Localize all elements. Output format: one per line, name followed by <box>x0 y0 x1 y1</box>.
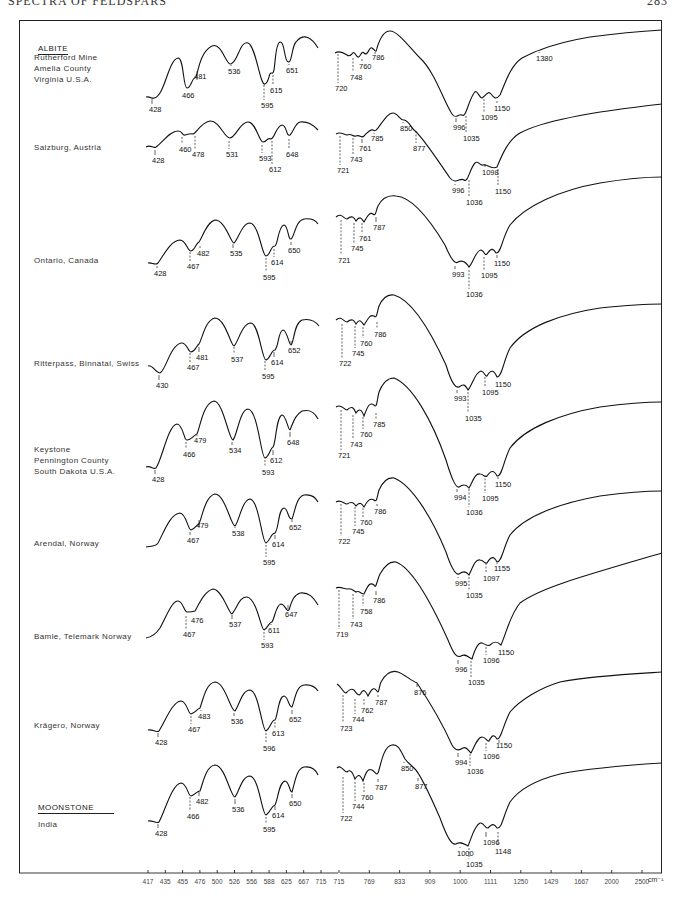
peak-label: 721 <box>337 166 350 175</box>
peak-label: 850 <box>400 124 413 133</box>
x-axis-tick-label: 625 <box>281 878 292 885</box>
peak-label: 1035 <box>466 591 483 600</box>
peak-label: 723 <box>340 724 353 733</box>
peak-label: 1096 <box>483 656 500 665</box>
peak-label: 479 <box>194 436 207 445</box>
peak-label: 743 <box>350 620 363 629</box>
spectra-curves <box>146 30 662 846</box>
peak-label: 460 <box>179 145 192 154</box>
peak-label: 614 <box>271 358 284 367</box>
peak-label: 786 <box>372 53 385 62</box>
peak-label: 760 <box>359 62 372 71</box>
peak-label: 466 <box>183 450 196 459</box>
peak-label: 612 <box>270 456 283 465</box>
x-axis-tick-label: 1429 <box>544 878 558 885</box>
peak-label: 1380 <box>536 54 553 63</box>
x-axis-tick-label: 526 <box>229 878 240 885</box>
peak-label: 761 <box>359 144 372 153</box>
x-axis-tick-label: 2000 <box>604 878 618 885</box>
peak-label: 1150 <box>498 648 514 657</box>
peak-label: 648 <box>286 150 299 159</box>
peak-label: 721 <box>338 451 351 460</box>
peak-label: 1155 <box>494 564 510 573</box>
peak-label: 996 <box>455 665 468 674</box>
peak-label: 648 <box>287 438 300 447</box>
peak-label: 1095 <box>481 113 498 122</box>
peak-label: 994 <box>454 493 467 502</box>
peak-label: 722 <box>340 814 353 823</box>
peak-label: 1035 <box>463 134 480 143</box>
peak-label: 467 <box>188 725 201 734</box>
peak-label: 652 <box>288 346 301 355</box>
x-axis-tick-label: 715 <box>334 878 345 885</box>
peak-label: 466 <box>187 812 200 821</box>
x-axis-tick-label: 1000 <box>453 878 467 885</box>
peak-label: 1097 <box>483 574 500 583</box>
peak-label: 650 <box>289 799 302 808</box>
peak-label: 593 <box>261 641 274 650</box>
spectrum-right-arendal <box>336 478 662 575</box>
peak-label: 1095 <box>482 388 499 397</box>
peak-label: 615 <box>270 86 283 95</box>
peak-label: 722 <box>338 537 351 546</box>
peak-label: 482 <box>197 249 210 258</box>
peak-label: 876 <box>414 688 427 697</box>
peak-label: 535 <box>230 249 243 258</box>
peak-label: 595 <box>263 825 276 834</box>
peak-label: 647 <box>285 610 298 619</box>
peak-label: 1095 <box>481 271 498 280</box>
peak-label: 428 <box>155 829 168 838</box>
peak-label: 745 <box>351 244 364 253</box>
x-axis-tick-label: 667 <box>298 878 309 885</box>
peak-label: 743 <box>350 155 363 164</box>
peak-label: 743 <box>350 440 363 449</box>
peak-label: 877 <box>415 782 428 791</box>
peak-label: 745 <box>352 349 365 358</box>
peak-label: 612 <box>269 165 282 174</box>
peak-label: 467 <box>187 536 200 545</box>
x-axis-tick-label: 833 <box>394 878 405 885</box>
peak-label: 467 <box>187 363 200 372</box>
peak-label: 758 <box>360 607 373 616</box>
peak-label: 1150 <box>496 741 512 750</box>
x-axis-tick-label: 435 <box>160 878 171 885</box>
peak-label: 786 <box>374 330 387 339</box>
peak-label: 760 <box>360 339 373 348</box>
peak-label: 467 <box>187 262 200 271</box>
x-axis-tick-label: 715 <box>316 878 327 885</box>
peak-label: 428 <box>152 475 165 484</box>
peak-label: 1035 <box>466 860 483 869</box>
peak-label: 1096 <box>483 752 500 761</box>
x-axis-tick-label: 909 <box>424 878 435 885</box>
peak-label: 1035 <box>468 678 485 687</box>
peak-label: 1096 <box>483 838 500 847</box>
peak-label: 1095 <box>482 494 499 503</box>
peak-label: 1036 <box>467 767 484 776</box>
peak-label: 537 <box>231 355 244 364</box>
peak-label: 996 <box>452 186 465 195</box>
peak-label: 877 <box>413 144 426 153</box>
x-axis-tick-label: 1667 <box>574 878 588 885</box>
x-axis-tick-label: 1250 <box>514 878 528 885</box>
peak-label: 428 <box>154 269 167 278</box>
peak-label: 760 <box>360 518 373 527</box>
peak-label: 613 <box>272 729 285 738</box>
peak-label: 760 <box>361 793 374 802</box>
peak-label: 748 <box>350 73 363 82</box>
peak-label: 428 <box>152 156 165 165</box>
peak-label: 762 <box>361 706 374 715</box>
peak-label: 1148 <box>495 847 511 856</box>
x-axis <box>19 870 662 873</box>
x-axis-unit: cm⁻¹ <box>648 876 664 884</box>
peak-label: 745 <box>352 527 365 536</box>
peak-label: 478 <box>192 150 205 159</box>
peak-label: 481 <box>194 72 207 81</box>
peak-label: 651 <box>286 66 299 75</box>
peak-label: 595 <box>261 101 274 110</box>
peak-label: 993 <box>452 270 465 279</box>
peak-label: 1150 <box>495 380 511 389</box>
peak-label: 744 <box>352 802 365 811</box>
peak-label: 614 <box>272 811 285 820</box>
peak-label: 537 <box>229 620 242 629</box>
peak-label: 428 <box>155 738 168 747</box>
